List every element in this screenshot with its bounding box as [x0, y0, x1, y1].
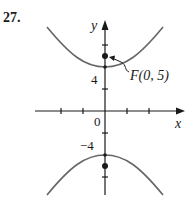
lower-focus-point — [102, 163, 108, 169]
y-axis-label: y — [89, 18, 98, 33]
focus-callout-arrow — [109, 56, 129, 73]
hyperbola-figure: 27. x 0 y 4 −4 F(0, 5) — [0, 0, 195, 197]
upper-vertex-point — [103, 65, 107, 69]
y-axis-arrow-icon — [102, 20, 109, 30]
x-axis-arrow-icon — [176, 108, 185, 115]
x-axis-label: x — [174, 116, 182, 131]
origin-label: 0 — [94, 114, 101, 129]
focus-label: F(0, 5) — [129, 68, 169, 84]
lower-vertex-label: −4 — [80, 138, 94, 153]
problem-number: 27. — [3, 10, 21, 25]
callout-arrowhead-icon — [109, 56, 115, 62]
upper-focus-point — [102, 53, 108, 59]
upper-vertex-label: 4 — [91, 72, 98, 87]
lower-vertex-point — [103, 153, 107, 157]
x-axis — [35, 108, 185, 115]
